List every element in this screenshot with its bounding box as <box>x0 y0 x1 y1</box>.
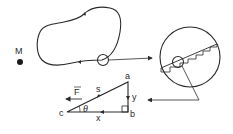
side-s-arrow-icon <box>97 95 101 99</box>
theta-arc <box>79 106 80 112</box>
angle-theta-label: θ <box>83 104 88 114</box>
staircase-steps <box>161 44 217 72</box>
work-path-diagram: M a b c s y x θ F <box>0 0 233 134</box>
mass-label: M <box>15 47 23 56</box>
magnified-path-line <box>161 44 217 68</box>
vertex-b-label: b <box>130 110 135 119</box>
magnified-circle <box>160 27 220 87</box>
side-y-arrow-icon <box>126 96 130 100</box>
side-x-label: x <box>96 114 101 123</box>
closed-path-curve <box>37 7 120 65</box>
vertex-a-label: a <box>125 72 130 81</box>
point-mass-dot <box>17 59 23 65</box>
force-label: F <box>74 88 80 97</box>
side-s-label: s <box>96 85 101 94</box>
magnify-arrow <box>109 58 152 60</box>
side-y-label: y <box>132 93 137 102</box>
diagram-canvas <box>0 0 233 134</box>
path-direction-arrow-icon <box>78 60 81 64</box>
right-angle-marker <box>122 106 128 112</box>
vertex-c-label: c <box>59 109 64 118</box>
pointer-line <box>182 66 199 100</box>
